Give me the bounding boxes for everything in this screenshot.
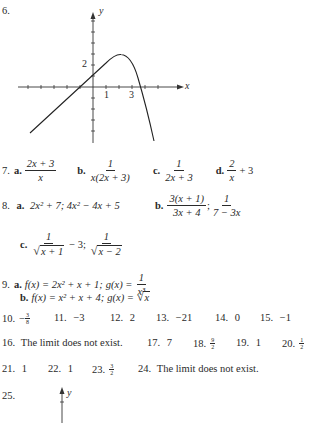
part-c-label: c. [20,239,27,250]
answer-20: 20. 12 [282,337,304,350]
sqrt-symbol: √x + 1 [33,245,64,257]
part-b-fraction: 1 x(2x + 3) [89,158,132,183]
part-c-second-fraction: 1 √x − 2 [89,231,124,257]
problem-7: 7. a. 2x + 3 x b. 1 x(2x + 3) c. 1 2x + … [2,158,253,183]
part-a-fraction: 2x + 3 x [25,158,57,183]
problem-8-b: b. 3(x + 1) 3x + 4 ; 1 7 − 3x [155,193,243,218]
problem-7-number: 7. [2,165,10,176]
y-axis-arrow-icon [60,387,65,394]
middle-text: − 3; [69,239,86,250]
part-b-second-fraction: 1 7 − 3x [211,193,243,218]
y-axis-arrow-icon [91,12,96,19]
answer-12: 12. 2 [110,312,135,323]
answer-10: 10. − 38 [2,312,30,325]
problem-25-y-label: y [67,387,71,398]
problem-8-a: 8. a. 2x² + 7; 4x² − 4x + 5 [2,200,120,211]
answers-row-2: 16. The limit does not exist. 17. 7 18. … [2,336,307,352]
problem-8-number: 8. [2,200,10,211]
answer-16: 16. The limit does not exist. [2,337,123,348]
answer-18: 18. 92 [193,337,215,350]
fraction: 12 [299,337,304,350]
sqrt-symbol: √x [137,291,150,303]
part-c-fraction: 1 2x + 3 [163,158,195,183]
answers-row-3: 21. 1 22. 1 23. 32 24. The limit does no… [2,362,307,378]
answer-13: 13. −21 [156,312,192,323]
part-b-g-prefix: g(x) = [107,292,134,303]
part-c-label: c. [153,165,160,176]
part-b-label: b. [20,292,28,303]
x-tick-label-1: 1 [104,89,109,100]
part-a-label: a. [14,165,22,176]
x-axis-label: x [185,80,189,91]
answer-23: 23. 32 [92,363,114,376]
problem-9-b: b. f(x) = x² + x + 4; g(x) = √x [20,291,150,303]
part-d-suffix: + 3 [239,165,253,176]
part-b-label: b. [77,165,85,176]
answer-24: 24. The limit does not exist. [138,363,259,374]
part-c-first-fraction: 1 √x + 1 [31,231,66,257]
part-a-f: f(x) = 2x² + x + 1; [25,279,103,290]
part-b-label: b. [155,200,163,211]
part-d-fraction: 2 x [227,158,236,183]
part-a-label: a. [17,200,25,211]
sqrt-symbol: √x − 2 [91,245,122,257]
answer-19: 19. 1 [236,337,261,348]
problem-8-c: c. 1 √x + 1 − 3; 1 √x − 2 [20,231,125,257]
part-d-label: d. [216,165,224,176]
part-a-g-prefix: g(x) = [106,279,133,290]
answer-15: 15. −1 [260,312,291,323]
answer-14: 14. 0 [215,312,240,323]
answer-21: 21. 1 [2,363,27,374]
y-tick-label-2: 2 [82,58,87,69]
x-tick-label-3: 3 [129,89,134,100]
part-a-label: a. [14,279,22,290]
answer-22: 22. 1 [48,363,73,374]
answer-17: 17. 7 [147,337,172,348]
problem-25-number: 25. [2,390,15,401]
problem-9-number: 9. [2,279,10,290]
part-b-f: f(x) = x² + x + 4; [31,292,104,303]
separator: ; [207,200,210,211]
answers-row-1: 10. − 38 11. −3 12. 2 13. −21 14. 0 15. … [2,311,307,327]
problem-25-graph [50,385,80,423]
answer-11: 11. −3 [54,312,85,323]
fraction: 38 [25,312,30,325]
y-axis-label: y [99,5,103,16]
problem-6-graph [0,0,200,150]
x-axis-arrow-icon [177,85,184,90]
fraction: 32 [109,363,114,376]
part-a-answer: 2x² + 7; 4x² − 4x + 5 [30,200,120,211]
part-b-first-fraction: 3(x + 1) 3x + 4 [167,193,206,218]
fraction: 92 [210,337,215,350]
